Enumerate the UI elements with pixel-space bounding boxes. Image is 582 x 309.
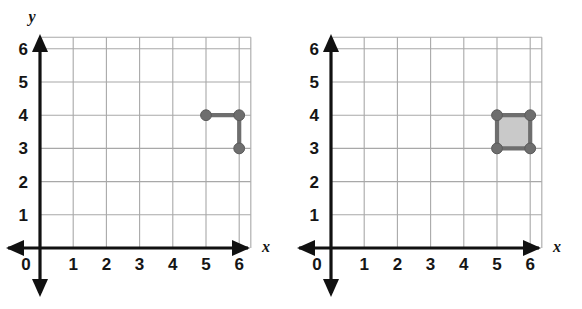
x-axis-tick-label: 6 — [525, 255, 534, 274]
x-axis-tick-label: 4 — [459, 255, 469, 274]
grid-lines — [40, 37, 251, 248]
x-axis-tick-label: 2 — [393, 255, 402, 274]
x-axis-tick-label: 2 — [102, 255, 111, 274]
origin-label: 0 — [21, 255, 30, 274]
y-axis-tick-label: 6 — [310, 40, 319, 59]
y-axis-tick-label: 5 — [19, 73, 28, 92]
y-axis-tick-label: 6 — [19, 40, 28, 59]
origin-label: 0 — [312, 255, 321, 274]
tick-labels: 0123456123456 — [19, 40, 244, 274]
left-plot-svg: 0123456123456xy — [0, 0, 291, 309]
axes — [297, 34, 541, 297]
x-axis-label: x — [261, 238, 270, 255]
x-axis-tick-label: 1 — [68, 255, 77, 274]
x-axis-arrow-left — [6, 240, 24, 256]
y-axis-label: y — [26, 8, 36, 26]
plot-point — [492, 110, 503, 121]
y-axis-tick-label: 3 — [19, 139, 28, 158]
x-axis-arrow-right — [232, 240, 250, 256]
y-axis-tick-label: 4 — [19, 106, 29, 125]
axes — [6, 34, 250, 297]
plot-point — [234, 110, 245, 121]
x-axis-tick-label: 5 — [492, 255, 501, 274]
x-axis-tick-label: 3 — [426, 255, 435, 274]
plot-point — [525, 143, 536, 154]
coordinate-plane-left: 0123456123456xy — [0, 0, 291, 309]
y-axis-arrow-down — [32, 279, 48, 297]
plot-point — [492, 143, 503, 154]
x-axis-label: x — [552, 238, 561, 255]
x-axis-tick-label: 3 — [135, 255, 144, 274]
plot-polygon — [497, 115, 530, 148]
x-axis-tick-label: 5 — [201, 255, 210, 274]
plot-point — [525, 110, 536, 121]
y-axis-tick-label: 4 — [310, 106, 320, 125]
y-axis-tick-label: 3 — [310, 139, 319, 158]
coordinate-plane-right: 0123456123456x — [291, 0, 582, 309]
right-plot-svg: 0123456123456x — [291, 0, 582, 309]
y-axis-tick-label: 2 — [310, 173, 319, 192]
y-axis-tick-label: 2 — [19, 173, 28, 192]
x-axis-tick-label: 6 — [234, 255, 243, 274]
x-axis-tick-label: 4 — [168, 255, 178, 274]
y-axis-arrow-down — [323, 279, 339, 297]
plot-polygons — [497, 115, 530, 148]
x-axis-arrow-right — [523, 240, 541, 256]
x-axis-tick-label: 1 — [359, 255, 368, 274]
axis-names: x — [552, 238, 561, 255]
y-axis-tick-label: 1 — [19, 206, 28, 225]
plot-point — [201, 110, 212, 121]
x-axis-arrow-left — [297, 240, 315, 256]
coordinate-plane-figure: 0123456123456xy 0123456123456x — [0, 0, 582, 309]
y-axis-tick-label: 5 — [310, 73, 319, 92]
axis-names: xy — [26, 8, 270, 255]
plot-point — [234, 143, 245, 154]
y-axis-tick-label: 1 — [310, 206, 319, 225]
plot-segments — [206, 115, 239, 148]
tick-labels: 0123456123456 — [310, 40, 535, 274]
